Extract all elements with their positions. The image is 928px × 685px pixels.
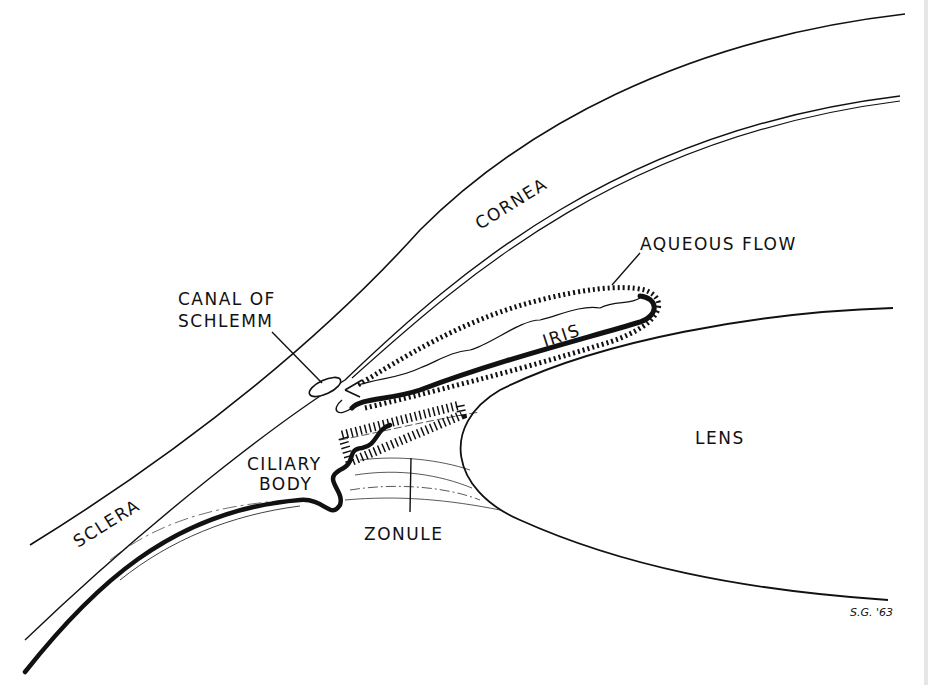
label-ciliary-line2: BODY: [259, 474, 312, 494]
ciliary-hatching: [342, 405, 462, 462]
eye-anatomy-diagram: CORNEA SCLERA CANAL OF SCHLEMM AQUEOUS F…: [0, 0, 928, 685]
zonule-pointer-line: [410, 458, 411, 512]
trabecular-hook: [336, 400, 352, 413]
aqueous-pointer-line: [612, 253, 640, 285]
iris-anterior-line: [358, 298, 640, 385]
label-cornea: CORNEA: [472, 173, 551, 233]
outer-cornea-sclera-line: [30, 14, 905, 545]
label-canal-line1: CANAL OF: [178, 289, 276, 309]
aqueous-flow-arrow: [345, 380, 362, 397]
label-lens: LENS: [695, 428, 745, 448]
image-edge: [924, 0, 928, 685]
label-ciliary-line1: CILIARY: [247, 454, 322, 474]
label-zonule: ZONULE: [364, 524, 443, 544]
artist-signature: S.G. '63: [850, 606, 893, 619]
inner-cornea-line-a: [25, 96, 900, 640]
label-canal-line2: SCHLEMM: [178, 311, 274, 331]
lens-outline: [461, 308, 893, 600]
iris-posterior-line: [352, 296, 654, 408]
canal-of-schlemm-shape: [307, 373, 344, 400]
label-aqueous-flow: AQUEOUS FLOW: [640, 234, 797, 254]
canal-pointer-line: [272, 332, 322, 383]
choroid-thin-line: [120, 506, 300, 580]
